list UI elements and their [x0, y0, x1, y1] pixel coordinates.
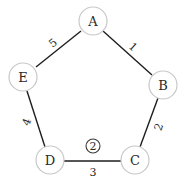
- edge-label-b-c: 2: [152, 121, 167, 132]
- node-label-e: E: [18, 70, 28, 85]
- node-label-d: D: [45, 153, 55, 168]
- edge-e-a: [36, 31, 81, 67]
- node-b: B: [149, 71, 177, 99]
- node-a: A: [79, 7, 107, 35]
- node-d: D: [36, 146, 64, 174]
- badge-label: 2: [90, 140, 97, 153]
- edge-label-a-b: 1: [126, 40, 140, 54]
- edge-label-c-d: 3: [90, 166, 97, 179]
- edge-a-b: [103, 31, 152, 75]
- circled-number-badge: 2: [86, 139, 100, 153]
- edge-label-e-a: 5: [46, 36, 60, 51]
- node-label-b: B: [158, 78, 168, 93]
- node-e: E: [9, 63, 37, 91]
- edge-d-e: [27, 91, 45, 147]
- graph-diagram: 1 2 3 4 5 2 A B C D E: [0, 0, 188, 185]
- node-c: C: [121, 146, 149, 174]
- node-label-c: C: [130, 153, 140, 168]
- edge-label-d-e: 4: [20, 116, 35, 127]
- node-label-a: A: [87, 14, 98, 29]
